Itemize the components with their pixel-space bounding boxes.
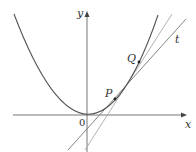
diagram-graphics — [0, 0, 196, 152]
point-p-label: P — [105, 88, 112, 99]
origin-label: 0 — [79, 118, 85, 128]
point-p-marker — [114, 98, 117, 101]
diagram: y x 0 P Q t — [0, 0, 196, 152]
tangent-label: t — [175, 34, 179, 45]
point-q-label: Q — [127, 53, 136, 64]
y-axis-label: y — [77, 8, 83, 19]
x-axis-label: x — [185, 119, 191, 130]
x-axis-arrow-icon — [181, 113, 187, 118]
point-q-marker — [138, 61, 141, 64]
parabola-curve — [14, 14, 158, 114]
y-axis-arrow-icon — [85, 11, 90, 17]
